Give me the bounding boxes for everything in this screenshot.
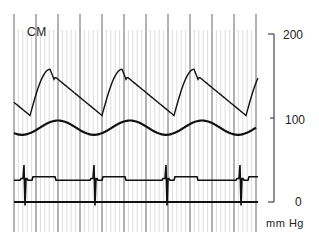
tick-label-100: 100 bbox=[285, 114, 305, 126]
unit-label: mm Hg bbox=[266, 218, 304, 229]
tick-label-0: 0 bbox=[295, 196, 302, 208]
traces bbox=[14, 69, 258, 205]
pressure-scale-bracket bbox=[268, 34, 274, 202]
cm-label: CM bbox=[27, 26, 47, 38]
recording-chart bbox=[0, 0, 319, 241]
tick-label-200: 200 bbox=[283, 29, 303, 41]
